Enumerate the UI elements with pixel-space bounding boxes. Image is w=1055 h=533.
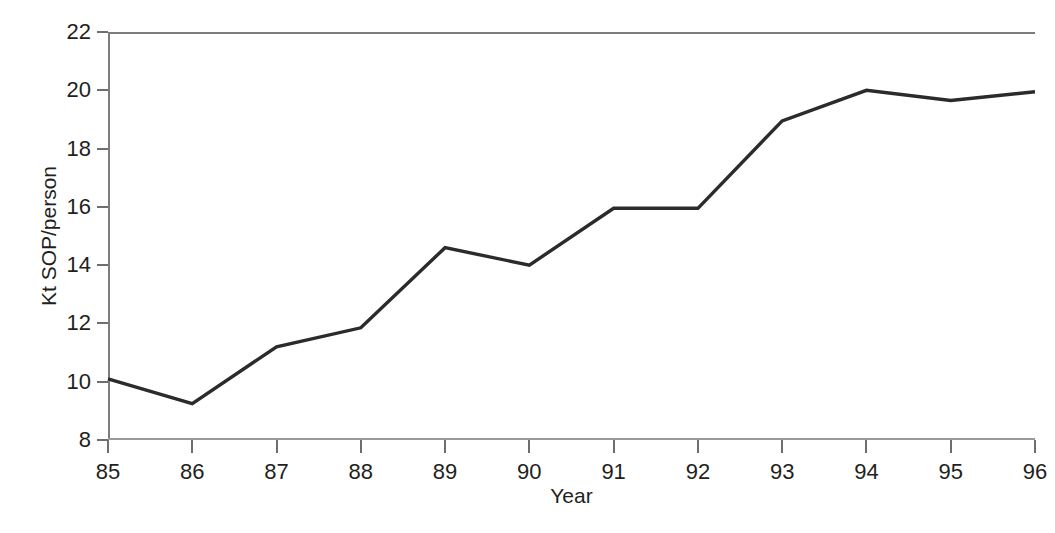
x-tick-mark <box>528 440 530 453</box>
x-tick-label: 94 <box>854 459 878 485</box>
x-tick-label: 96 <box>1023 459 1047 485</box>
y-tick-label: 18 <box>67 136 91 162</box>
data-series-layer <box>108 32 1035 440</box>
x-tick-mark <box>444 440 446 453</box>
y-axis-title: Kt SOP/person <box>36 32 62 440</box>
x-tick-label: 92 <box>686 459 710 485</box>
series-line-kt-sop-per-person <box>108 90 1035 403</box>
x-tick-mark <box>781 440 783 453</box>
plot-area: 810121416182022 858687888990919293949596 <box>108 32 1035 440</box>
x-tick-mark <box>191 440 193 453</box>
x-tick-mark <box>613 440 615 453</box>
x-tick-label: 91 <box>601 459 625 485</box>
y-tick-mark <box>97 206 108 208</box>
x-tick-label: 89 <box>433 459 457 485</box>
y-tick-mark <box>97 322 108 324</box>
y-tick-mark <box>97 31 108 33</box>
x-tick-label: 88 <box>349 459 373 485</box>
x-tick-mark <box>360 440 362 453</box>
y-tick-mark <box>97 89 108 91</box>
x-tick-mark <box>107 440 109 453</box>
x-tick-label: 86 <box>180 459 204 485</box>
x-tick-label: 95 <box>938 459 962 485</box>
y-tick-label: 12 <box>67 310 91 336</box>
y-tick-mark <box>97 264 108 266</box>
y-tick-label: 16 <box>67 194 91 220</box>
y-tick-mark <box>97 381 108 383</box>
line-chart-figure: Kt SOP/person 810121416182022 8586878889… <box>0 0 1055 533</box>
x-tick-mark <box>276 440 278 453</box>
y-tick-label: 8 <box>79 427 91 453</box>
x-tick-label: 93 <box>770 459 794 485</box>
y-tick-label: 22 <box>67 19 91 45</box>
x-tick-mark <box>865 440 867 453</box>
y-tick-label: 14 <box>67 252 91 278</box>
y-tick-label: 10 <box>67 369 91 395</box>
x-tick-mark <box>697 440 699 453</box>
x-tick-mark <box>1034 440 1036 453</box>
x-tick-label: 85 <box>96 459 120 485</box>
y-tick-mark <box>97 148 108 150</box>
y-tick-label: 20 <box>67 77 91 103</box>
x-tick-label: 90 <box>517 459 541 485</box>
x-tick-label: 87 <box>264 459 288 485</box>
x-axis-title: Year <box>108 484 1035 508</box>
x-tick-mark <box>950 440 952 453</box>
